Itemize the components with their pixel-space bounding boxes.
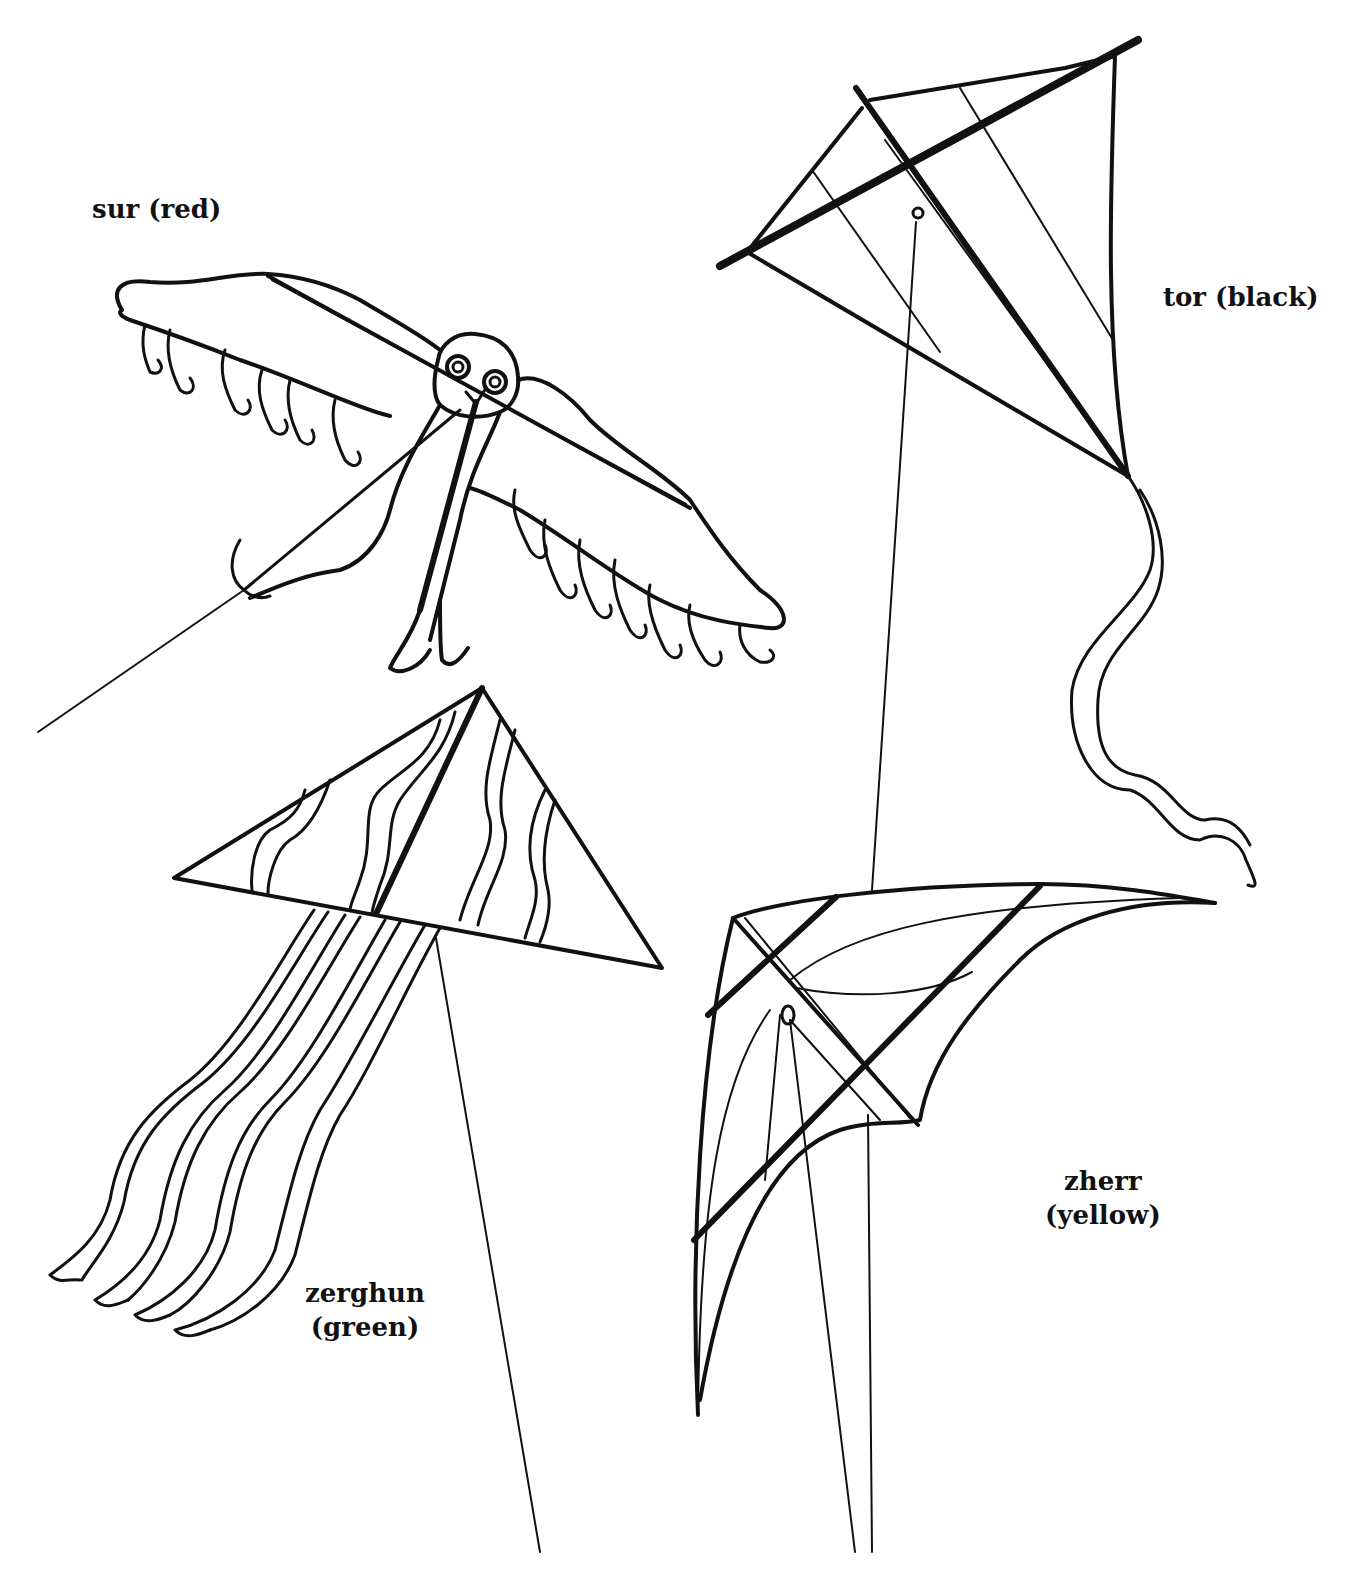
kites-coloring-page bbox=[0, 0, 1358, 1569]
tor-kite bbox=[720, 40, 1255, 890]
zerghun-streamers bbox=[50, 910, 440, 1336]
tor-spar bbox=[720, 40, 1138, 266]
tor-panel-lines bbox=[812, 88, 1128, 476]
sur-spreader-inner bbox=[272, 280, 686, 504]
zerghun-label-name: zerghun bbox=[305, 1276, 425, 1310]
sur-label-text: sur (red) bbox=[92, 192, 221, 226]
tor-bridle-ring bbox=[913, 208, 923, 218]
sur-right-wing bbox=[470, 378, 784, 628]
sur-body bbox=[250, 405, 500, 640]
sur-left-eye-inner bbox=[453, 362, 463, 372]
sur-right-eye-inner bbox=[490, 377, 500, 387]
sur-kite-string bbox=[38, 590, 244, 732]
tor-outline bbox=[747, 56, 1128, 476]
zherr-kite-string-left bbox=[790, 1020, 855, 1552]
zerghun-label: zerghun (green) bbox=[305, 1276, 425, 1344]
sur-right-eye bbox=[484, 371, 506, 393]
zherr-bridle-lines bbox=[765, 1015, 880, 1180]
tor-label-text: tor (black) bbox=[1163, 280, 1318, 314]
zerghun-sail-stripes bbox=[252, 712, 555, 942]
zherr-sail-curves bbox=[698, 898, 1180, 1415]
zerghun-kite-string bbox=[436, 938, 540, 1552]
zerghun-label-color: (green) bbox=[305, 1310, 425, 1344]
tor-kite-string bbox=[872, 222, 916, 890]
sur-right-fringe bbox=[514, 490, 774, 665]
sur-kite bbox=[38, 274, 784, 732]
zherr-label-color: (yellow) bbox=[1045, 1198, 1161, 1232]
zherr-kite-string-right bbox=[868, 1115, 872, 1552]
sur-spine bbox=[420, 402, 476, 610]
zherr-label-name: zherr bbox=[1045, 1164, 1161, 1198]
tor-tail bbox=[1072, 476, 1256, 886]
zherr-cross-strut-inner bbox=[745, 918, 910, 1118]
sur-tail-left bbox=[390, 600, 468, 671]
tor-label: tor (black) bbox=[1163, 280, 1318, 314]
zherr-label: zherr (yellow) bbox=[1045, 1164, 1161, 1232]
tor-spine bbox=[856, 88, 1128, 476]
sur-label: sur (red) bbox=[92, 192, 221, 226]
zerghun-kite bbox=[50, 688, 662, 1552]
